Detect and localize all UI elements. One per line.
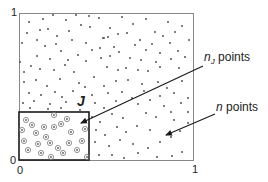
x-axis-left-label: 0	[17, 165, 23, 176]
y-axis-bottom-label: 0	[10, 155, 16, 166]
arrow-nj	[81, 66, 203, 123]
x-axis-right-label: 1	[192, 164, 198, 175]
n-points-label: n points	[216, 101, 258, 113]
nj-text: points	[218, 50, 250, 64]
nj-var: n	[204, 50, 211, 64]
subregion-j-label: J	[77, 94, 85, 108]
y-axis-top-label: 1	[11, 7, 17, 18]
nj-subscript: J	[211, 57, 215, 66]
unit-square-diagram	[0, 0, 268, 182]
nj-points-label: nJ points	[204, 51, 250, 66]
n-text: points	[226, 100, 258, 114]
subregion-j-frame	[19, 112, 89, 160]
n-var: n	[216, 100, 223, 114]
arrow-n	[166, 114, 215, 135]
